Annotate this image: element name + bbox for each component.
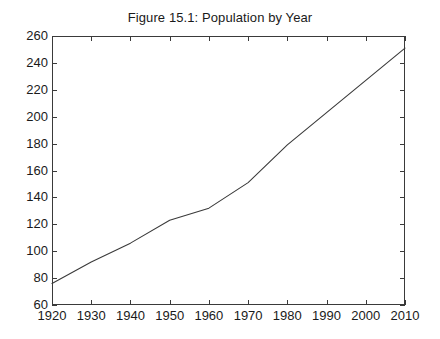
x-tick-mark bbox=[366, 300, 367, 305]
y-tick-label: 260 bbox=[26, 28, 48, 43]
y-tick-mark bbox=[400, 278, 405, 279]
y-tick-label: 140 bbox=[26, 189, 48, 204]
x-axis-tick-labels: 1920193019401950196019701980199020002010 bbox=[52, 308, 405, 328]
y-tick-mark bbox=[52, 305, 57, 306]
y-axis-tick-labels: 6080100120140160180200220240260 bbox=[4, 36, 48, 305]
y-tick-mark bbox=[400, 117, 405, 118]
chart-title: Figure 15.1: Population by Year bbox=[0, 10, 440, 25]
y-tick-label: 220 bbox=[26, 82, 48, 97]
y-tick-mark bbox=[52, 224, 57, 225]
x-tick-mark bbox=[130, 300, 131, 305]
x-tick-mark bbox=[287, 36, 288, 41]
y-tick-label: 240 bbox=[26, 55, 48, 70]
x-tick-label: 1950 bbox=[155, 308, 184, 323]
plot-area bbox=[52, 36, 405, 305]
x-tick-mark bbox=[405, 300, 406, 305]
y-tick-mark bbox=[400, 90, 405, 91]
y-tick-mark bbox=[400, 305, 405, 306]
y-tick-mark bbox=[400, 197, 405, 198]
y-tick-label: 80 bbox=[34, 270, 48, 285]
y-tick-mark bbox=[52, 63, 57, 64]
y-tick-label: 160 bbox=[26, 163, 48, 178]
x-tick-label: 1960 bbox=[194, 308, 223, 323]
y-tick-mark bbox=[52, 117, 57, 118]
x-tick-mark bbox=[52, 300, 53, 305]
x-tick-mark bbox=[170, 36, 171, 41]
population-line-path bbox=[52, 48, 405, 283]
x-tick-label: 1970 bbox=[234, 308, 263, 323]
y-tick-mark bbox=[400, 224, 405, 225]
x-tick-label: 1940 bbox=[116, 308, 145, 323]
x-tick-mark bbox=[91, 300, 92, 305]
y-tick-mark bbox=[400, 171, 405, 172]
y-tick-mark bbox=[52, 144, 57, 145]
x-tick-label: 1980 bbox=[273, 308, 302, 323]
x-tick-label: 1930 bbox=[77, 308, 106, 323]
x-tick-mark bbox=[130, 36, 131, 41]
x-tick-label: 2010 bbox=[391, 308, 420, 323]
y-tick-label: 200 bbox=[26, 109, 48, 124]
x-tick-mark bbox=[405, 36, 406, 41]
x-tick-mark bbox=[287, 300, 288, 305]
x-tick-mark bbox=[327, 36, 328, 41]
x-tick-mark bbox=[209, 36, 210, 41]
x-tick-mark bbox=[170, 300, 171, 305]
figure-container: Figure 15.1: Population by Year 60801001… bbox=[0, 0, 440, 339]
x-tick-mark bbox=[248, 300, 249, 305]
y-tick-mark bbox=[400, 144, 405, 145]
y-tick-mark bbox=[400, 63, 405, 64]
y-tick-mark bbox=[52, 278, 57, 279]
x-tick-mark bbox=[327, 300, 328, 305]
x-tick-mark bbox=[209, 300, 210, 305]
x-tick-mark bbox=[52, 36, 53, 41]
y-tick-mark bbox=[52, 90, 57, 91]
y-tick-mark bbox=[52, 251, 57, 252]
y-tick-mark bbox=[52, 197, 57, 198]
y-tick-label: 100 bbox=[26, 243, 48, 258]
x-tick-mark bbox=[366, 36, 367, 41]
y-tick-mark bbox=[400, 251, 405, 252]
data-series-line bbox=[52, 36, 405, 305]
y-tick-label: 120 bbox=[26, 216, 48, 231]
x-tick-label: 1990 bbox=[312, 308, 341, 323]
y-tick-label: 180 bbox=[26, 136, 48, 151]
x-tick-label: 2000 bbox=[351, 308, 380, 323]
x-tick-mark bbox=[248, 36, 249, 41]
x-tick-label: 1920 bbox=[38, 308, 67, 323]
y-tick-mark bbox=[52, 171, 57, 172]
x-tick-mark bbox=[91, 36, 92, 41]
